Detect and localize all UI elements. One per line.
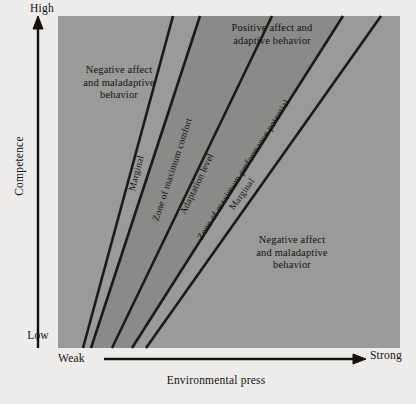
y-axis-arrowhead <box>33 16 43 29</box>
region-label-upper-right: Positive affect and adaptive behavior <box>208 22 336 47</box>
region-label-line: Negative affect <box>60 64 178 77</box>
x-axis-strong-label: Strong <box>370 349 416 361</box>
region-label-line: and maladaptive <box>60 77 178 90</box>
region-label-lower-right: Negative affect and maladaptive behavior <box>232 234 352 272</box>
y-axis-low-label: Low <box>16 329 60 341</box>
region-label-line: Negative affect <box>232 234 352 247</box>
x-axis-title: Environmental press <box>136 374 296 386</box>
region-label-upper-left: Negative affect and maladaptive behavior <box>60 64 178 102</box>
region-label-line: adaptive behavior <box>208 35 336 48</box>
region-label-line: Positive affect and <box>208 22 336 35</box>
region-label-line: behavior <box>232 259 352 272</box>
region-label-line: and maladaptive <box>232 247 352 260</box>
diagram-stage: Negative affect and maladaptive behavior… <box>0 0 416 404</box>
competence-press-diagram: Negative affect and maladaptive behavior… <box>0 0 416 404</box>
plot-graphics <box>0 0 416 404</box>
y-axis-title: Competence <box>13 111 25 221</box>
y-axis-high-label: High <box>20 2 64 14</box>
x-axis-weak-label: Weak <box>58 352 104 364</box>
region-label-line: behavior <box>60 89 178 102</box>
x-axis-arrowhead <box>353 354 366 364</box>
